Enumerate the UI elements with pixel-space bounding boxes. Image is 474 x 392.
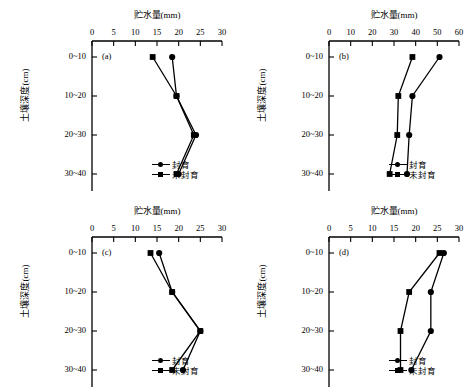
legend-c: 封育未封育 [152,355,199,375]
y-tick-label-a: 30~40 [30,168,86,178]
data-point-d [437,250,443,256]
legend-label: 未封育 [172,364,199,376]
data-point-d [406,289,412,295]
legend-line-icon [152,174,170,175]
legend-line-icon [389,164,407,165]
y-tick-label-c: 20~30 [30,325,86,335]
figure-grid: 贮水量(mm)土壤深度(cm)0510152025300~1010~2020~3… [0,0,474,392]
panel-label-c: (c) [102,247,111,257]
legend-line-icon [389,360,407,361]
legend-line-icon [152,370,170,371]
y-tick-label-a: 10~20 [30,90,86,100]
legend-square-marker-icon [395,172,400,177]
x-tick-label-d: 30 [445,223,473,233]
y-tick-label-c: 0~10 [30,247,86,257]
series-line-unenclosed-b [390,57,413,174]
panel-label-b: (b) [339,51,349,61]
legend-b: 封育未封育 [389,159,436,179]
legend-d: 封育未封育 [389,355,436,375]
data-point-c [197,328,203,334]
y-tick-label-d: 10~20 [267,286,323,296]
legend-item-unenclosed-b: 未封育 [389,169,436,179]
x-tick-label-a: 30 [208,27,236,37]
data-point-b [409,93,415,99]
y-tick-label-d: 20~30 [267,325,323,335]
y-tick-label-c: 10~20 [30,286,86,296]
panel-label-d: (d) [339,247,349,257]
data-point-b [406,132,412,138]
legend-label: 未封育 [409,168,436,180]
y-tick-label-b: 0~10 [267,51,323,61]
legend-line-icon [152,164,170,165]
data-point-b [436,54,442,60]
legend-square-marker-icon [158,172,163,177]
data-point-a [150,54,156,60]
legend-circle-marker-icon [395,162,400,167]
legend-label: 未封育 [172,168,199,180]
data-point-c [156,250,162,256]
y-tick-label-a: 0~10 [30,51,86,61]
legend-circle-marker-icon [158,358,163,363]
series-line-unenclosed-a [153,57,194,174]
x-tick-label-b: 60 [445,27,473,37]
series-line-enclosed-c [159,253,200,370]
data-point-b [395,93,401,99]
data-point-d [398,328,404,334]
x-tick-label-c: 30 [208,223,236,233]
chart-panel-c: 贮水量(mm)土壤深度(cm)0510152025300~1010~2020~3… [0,196,237,392]
y-tick-label-d: 0~10 [267,247,323,257]
chart-panel-b: 贮水量(mm)土壤深度(cm)01020304050600~1010~2020~… [237,0,474,196]
legend-line-icon [152,360,170,361]
legend-square-marker-icon [395,368,400,373]
data-point-c [148,250,154,256]
legend-item-unenclosed-a: 未封育 [152,169,199,179]
series-line-unenclosed-c [151,253,201,370]
data-point-a [169,54,175,60]
data-point-a [174,93,180,99]
y-tick-label-b: 10~20 [267,90,323,100]
legend-a: 封育未封育 [152,159,199,179]
legend-circle-marker-icon [395,358,400,363]
y-tick-label-d: 30~40 [267,364,323,374]
chart-panel-a: 贮水量(mm)土壤深度(cm)0510152025300~1010~2020~3… [0,0,237,196]
legend-line-icon [389,174,407,175]
legend-label: 未封育 [409,364,436,376]
data-point-a [191,132,197,138]
y-tick-label-a: 20~30 [30,129,86,139]
y-tick-label-b: 20~30 [267,129,323,139]
legend-square-marker-icon [158,368,163,373]
y-tick-label-b: 30~40 [267,168,323,178]
data-point-c [169,289,175,295]
series-line-enclosed-d [411,253,444,370]
panel-label-a: (a) [102,51,111,61]
data-point-b [410,54,416,60]
series-line-enclosed-b [407,57,440,174]
y-tick-label-c: 30~40 [30,364,86,374]
legend-line-icon [389,370,407,371]
legend-item-unenclosed-d: 未封育 [389,365,436,375]
legend-item-unenclosed-c: 未封育 [152,365,199,375]
data-point-b [394,132,400,138]
legend-circle-marker-icon [158,162,163,167]
data-point-d [428,328,434,334]
chart-panel-d: 贮水量(mm)土壤深度(cm)0510152025300~1010~2020~3… [237,196,474,392]
data-point-d [428,289,434,295]
